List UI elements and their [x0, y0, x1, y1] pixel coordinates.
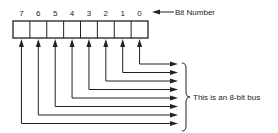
bus-wire-bit-1: [120, 39, 178, 75]
arrowhead-up: [137, 39, 142, 47]
bit-label-5: 5: [53, 9, 58, 18]
arrowhead-right: [170, 62, 178, 67]
bit-label-7: 7: [19, 9, 24, 18]
bus-wire-bit-6: [36, 39, 178, 118]
bus-diagram: 76543210 Bit Number This is an 8-bit bus: [0, 0, 278, 133]
bus-wire-bit-3: [86, 39, 178, 92]
arrowhead-right: [170, 79, 178, 84]
bus-wire-bit-4: [70, 39, 178, 101]
bit-label-4: 4: [70, 9, 75, 18]
arrowhead-up: [70, 39, 75, 47]
arrowhead-right: [170, 96, 178, 101]
arrowhead-right: [170, 70, 178, 75]
bit-label-2: 2: [104, 9, 109, 18]
bit-label-6: 6: [36, 9, 41, 18]
bit-label-3: 3: [87, 9, 92, 18]
bit-number-pointer: Bit Number: [152, 8, 215, 17]
arrowhead-right: [170, 87, 178, 92]
arrowhead-right: [170, 113, 178, 118]
arrowhead-up: [120, 39, 125, 47]
arrowhead-up: [103, 39, 108, 47]
bus-brace: [182, 63, 190, 131]
bus-wire-bit-7: [19, 39, 178, 126]
arrowhead-right: [170, 104, 178, 109]
arrowhead-up: [53, 39, 58, 47]
arrowhead-right: [170, 121, 178, 126]
bus-label: This is an 8-bit bus: [193, 93, 260, 102]
arrowhead-up: [19, 39, 24, 47]
arrowhead-up: [36, 39, 41, 47]
bus-wire-bit-0: [137, 39, 178, 67]
arrowhead-up: [86, 39, 91, 47]
bit-label-1: 1: [120, 9, 125, 18]
bit-number-label: Bit Number: [175, 8, 215, 17]
bit-label-0: 0: [137, 9, 142, 18]
